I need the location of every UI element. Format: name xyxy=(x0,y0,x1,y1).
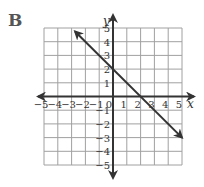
coordinate-plane: −5−4−3−2−101234554321−1−2−3−4−5 x y xyxy=(0,0,204,187)
x-axis-label: x xyxy=(187,97,194,111)
svg-text:5: 5 xyxy=(176,99,182,110)
svg-text:−4: −4 xyxy=(47,99,62,110)
svg-text:−5: −5 xyxy=(95,160,110,171)
y-axis-label: y xyxy=(102,14,110,28)
svg-text:1: 1 xyxy=(104,78,110,89)
axes xyxy=(38,15,194,178)
plotted-line xyxy=(75,31,182,137)
svg-text:−5: −5 xyxy=(34,99,49,110)
svg-text:−1: −1 xyxy=(95,105,110,116)
svg-text:−2: −2 xyxy=(75,99,90,110)
svg-text:4: 4 xyxy=(104,37,110,48)
svg-text:−2: −2 xyxy=(95,119,110,130)
svg-text:2: 2 xyxy=(134,99,140,110)
svg-text:−3: −3 xyxy=(95,133,110,144)
svg-text:−4: −4 xyxy=(95,146,110,157)
svg-text:4: 4 xyxy=(162,99,168,110)
svg-text:−3: −3 xyxy=(61,99,76,110)
svg-text:1: 1 xyxy=(121,99,127,110)
